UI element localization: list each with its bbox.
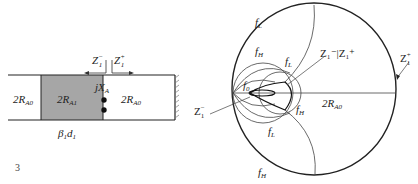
label-fL-lower: fL <box>268 125 275 139</box>
pointer-z-match <box>287 56 325 85</box>
middle-section-fill <box>41 75 103 120</box>
figure-number: 3 <box>15 162 20 173</box>
reactance-terminal-dot <box>101 107 106 112</box>
label-fH-right: fH <box>296 103 305 117</box>
port-left-label: Z−1 <box>92 53 103 69</box>
ground-hatch-icon <box>175 75 179 118</box>
label-fH-bottom: fH <box>258 166 267 180</box>
pointer-z-minus <box>210 97 250 114</box>
label-fL-top: fL <box>255 16 262 30</box>
figure-canvas: 2RA0 2RA1 2RA0 jXA β1d1 Z−1 Z+1 3 fL fH … <box>0 0 418 184</box>
right-section-label: 2RA0 <box>121 93 142 107</box>
port-right-label: Z+1 <box>114 53 125 69</box>
label-z-minus: Z−1 <box>194 104 205 120</box>
electrical-length-label: β1d1 <box>57 127 76 141</box>
label-f0: f0 <box>243 79 250 93</box>
reactance-label: jXA <box>93 81 110 95</box>
fH-arc-bottom <box>285 110 315 174</box>
smith-chart <box>210 3 409 175</box>
transmission-line-schematic: 2RA0 2RA1 2RA0 jXA β1d1 Z−1 Z+1 <box>8 53 179 141</box>
label-radius: 2RA0 <box>322 97 343 111</box>
label-z-match: Z₁⁻|Z₁⁺ <box>320 47 355 59</box>
reactance-terminal-dot <box>101 97 106 102</box>
label-fH-upper: fH <box>255 45 264 59</box>
fL-arc-top <box>285 5 314 82</box>
left-section-label: 2RA0 <box>13 93 34 107</box>
label-fL-inner: fL <box>285 55 292 69</box>
label-z-plus: Z+1 <box>400 51 411 67</box>
